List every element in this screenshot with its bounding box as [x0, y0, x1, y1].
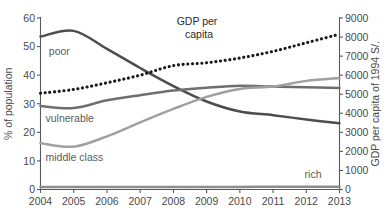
right-axis-title: GDP per capita of 1994 S/.: [369, 41, 381, 166]
x-axis-tick-label: 2008: [162, 195, 186, 207]
x-axis-tick-label: 2006: [95, 195, 119, 207]
right-axis-tick-label: 8000: [345, 31, 369, 43]
left-axis-tick-label: 0: [29, 183, 35, 195]
x-axis-tick-label: 2012: [295, 195, 319, 207]
chart-container: 0102030405060 01000200030004000500060007…: [0, 0, 386, 211]
series-label-capita: capita: [185, 28, 213, 40]
x-axis-tick-label: 2010: [228, 195, 252, 207]
series-label-poor: poor: [49, 45, 71, 57]
series-label-vulnerable: vulnerable: [45, 112, 94, 124]
line-chart: 0102030405060 01000200030004000500060007…: [0, 0, 386, 211]
series-label-rich: rich: [305, 168, 322, 180]
x-axis-tick-label: 2009: [195, 195, 219, 207]
right-axis-tick-label: 9000: [345, 12, 369, 24]
left-axis-tick-label: 10: [23, 155, 35, 167]
right-axis-tick-label: 3000: [345, 126, 369, 138]
left-axis-tick-label: 60: [23, 12, 35, 24]
right-axis-tick-label: 0: [345, 183, 351, 195]
left-axis-tick-label: 40: [23, 69, 35, 81]
series-label-gdp-per: GDP per: [177, 15, 218, 27]
right-axis-tick-label: 5000: [345, 88, 369, 100]
right-axis-tick-label: 7000: [345, 50, 369, 62]
right-axis-tick-label: 4000: [345, 107, 369, 119]
left-axis-tick-label: 30: [23, 98, 35, 110]
right-axis-tick-label: 1000: [345, 164, 369, 176]
left-axis-tick-label: 50: [23, 40, 35, 52]
right-axis-tick-label: 6000: [345, 69, 369, 81]
right-axis-tick-label: 2000: [345, 145, 369, 157]
series-label-middle-class: middle class: [45, 151, 103, 163]
x-axis-tick-label: 2011: [262, 195, 285, 207]
left-axis-tick-label: 20: [23, 126, 35, 138]
x-axis-tick-label: 2013: [328, 195, 352, 207]
left-axis-title: % of population: [2, 67, 14, 140]
x-axis-tick-label: 2005: [62, 195, 86, 207]
x-axis-tick-label: 2007: [128, 195, 152, 207]
x-axis-tick-label: 2004: [29, 195, 53, 207]
